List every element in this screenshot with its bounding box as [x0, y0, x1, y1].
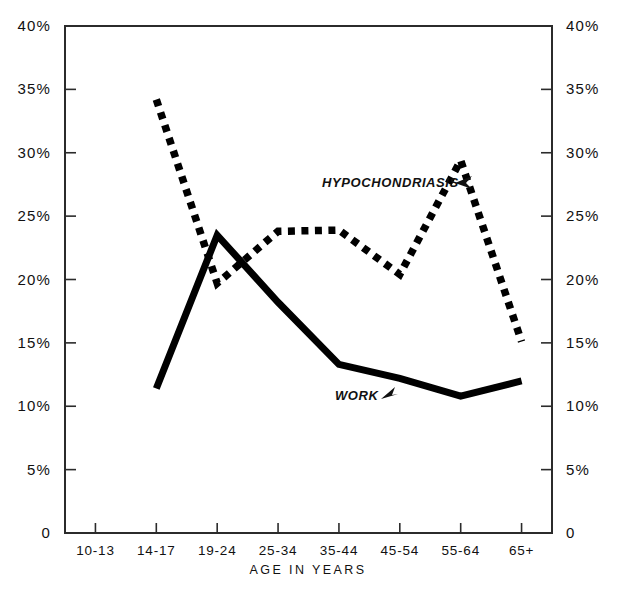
x-axis-title: AGE IN YEARS [250, 563, 367, 577]
right-axis-ticks [541, 89, 552, 469]
x-axis-tick-label: 19-24 [198, 543, 237, 558]
annotation-arrow-work [381, 387, 398, 399]
y-axis-tick-label: 10% [17, 397, 51, 414]
right-axis-labels: 05%10%15%20%25%30%35%40% [566, 17, 600, 541]
x-axis-tick-label: 35-44 [320, 543, 359, 558]
y-axis-tick-label-right: 25% [566, 207, 600, 224]
y-axis-tick-label-right: 5% [566, 461, 590, 478]
y-axis-tick-label-right: 35% [566, 80, 600, 97]
y-axis-tick-label-right: 0 [566, 524, 576, 541]
x-axis-tick-label: 65+ [509, 543, 534, 558]
y-axis-tick-label: 0 [41, 524, 51, 541]
y-axis-tick-label: 35% [17, 80, 51, 97]
y-axis-tick-label-right: 30% [566, 144, 600, 161]
plot-frame [65, 26, 552, 533]
annotation-work: WORK [335, 388, 380, 403]
series-line-work [156, 235, 521, 396]
x-axis-tick-label: 14-17 [137, 543, 176, 558]
y-axis-tick-label: 5% [27, 461, 51, 478]
line-chart: 05%10%15%20%25%30%35%40% 05%10%15%20%25%… [0, 0, 622, 597]
y-axis-tick-label-right: 40% [566, 17, 600, 34]
y-axis-tick-label: 15% [17, 334, 51, 351]
y-axis-tick-label-right: 20% [566, 271, 600, 288]
y-axis-tick-label: 25% [17, 207, 51, 224]
series-line-hypochondriasis [156, 100, 521, 342]
left-axis-labels: 05%10%15%20%25%30%35%40% [17, 17, 51, 541]
x-axis-tick-label: 45-54 [381, 543, 420, 558]
y-axis-tick-label-right: 15% [566, 334, 600, 351]
x-axis-labels: 10-1314-1719-2425-3435-4445-5455-6465+ [76, 543, 534, 558]
chart-container: 05%10%15%20%25%30%35%40% 05%10%15%20%25%… [0, 0, 622, 597]
y-axis-tick-label-right: 10% [566, 397, 600, 414]
x-axis-tick-label: 10-13 [76, 543, 115, 558]
annotation-hypochondriasis: HYPOCHONDRIASIS [322, 175, 459, 190]
y-axis-tick-label: 40% [17, 17, 51, 34]
bottom-axis-ticks [95, 523, 521, 533]
x-axis-tick-label: 25-34 [259, 543, 298, 558]
y-axis-tick-label: 30% [17, 144, 51, 161]
y-axis-tick-label: 20% [17, 271, 51, 288]
left-axis-ticks [65, 89, 76, 469]
x-axis-tick-label: 55-64 [441, 543, 480, 558]
